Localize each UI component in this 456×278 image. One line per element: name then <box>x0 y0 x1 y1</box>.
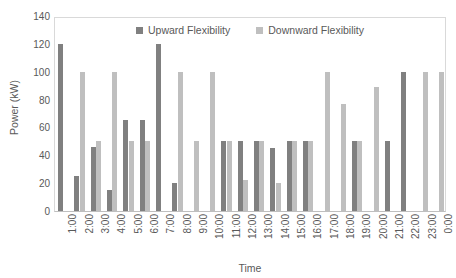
bar[interactable] <box>238 141 243 211</box>
y-axis-tick-label: 140 <box>22 12 50 22</box>
bar[interactable] <box>156 44 161 211</box>
bar[interactable] <box>439 72 444 211</box>
bar[interactable] <box>140 120 145 211</box>
x-axis-tick-label: 4:00 <box>117 214 127 260</box>
bar[interactable] <box>357 141 362 211</box>
bar-group <box>414 18 430 211</box>
bar[interactable] <box>254 141 259 211</box>
x-axis-tick-label: 7:00 <box>166 214 176 260</box>
bar-group <box>137 18 153 211</box>
bar[interactable] <box>123 120 128 211</box>
bar[interactable] <box>145 141 150 211</box>
bar[interactable] <box>259 141 264 211</box>
bar-group <box>398 18 414 211</box>
x-axis-tick-label: 21:00 <box>395 214 405 260</box>
bar-group <box>284 18 300 211</box>
bar[interactable] <box>227 141 232 211</box>
bar[interactable] <box>96 141 101 211</box>
x-axis-tick-label: 14:00 <box>281 214 291 260</box>
x-axis-tick-label: 9:00 <box>199 214 209 260</box>
y-axis-tick-label: 60 <box>22 123 50 133</box>
x-axis-tick-label: 2:00 <box>85 214 95 260</box>
bar[interactable] <box>58 44 63 211</box>
x-axis-tick-label: 10:00 <box>215 214 225 260</box>
bar-group <box>153 18 169 211</box>
bar-group <box>431 18 447 211</box>
bar-group <box>316 18 332 211</box>
x-axis-tick-label: 8:00 <box>183 214 193 260</box>
bar-chart: Power (kW) 020406080100120140 Upward Fle… <box>0 0 456 278</box>
bar-group <box>382 18 398 211</box>
bar-group <box>300 18 316 211</box>
bar-group <box>120 18 136 211</box>
bar[interactable] <box>385 141 390 211</box>
bar-group <box>365 18 381 211</box>
bar[interactable] <box>325 72 330 211</box>
x-axis-tick-label: 23:00 <box>428 214 438 260</box>
x-axis-tick-label: 18:00 <box>346 214 356 260</box>
bar[interactable] <box>80 72 85 211</box>
x-axis-tick-label: 19:00 <box>362 214 372 260</box>
bar-group <box>251 18 267 211</box>
y-axis-tick-label: 120 <box>22 40 50 50</box>
x-axis-tick-label: 17:00 <box>330 214 340 260</box>
bar[interactable] <box>292 141 297 211</box>
bar[interactable] <box>401 72 406 211</box>
x-axis-tick-label: 1:00 <box>68 214 78 260</box>
y-axis-tick-label: 100 <box>22 68 50 78</box>
x-axis-tick-label: 20:00 <box>379 214 389 260</box>
bar[interactable] <box>308 141 313 211</box>
x-axis-tick-label: 3:00 <box>101 214 111 260</box>
bar-group <box>202 18 218 211</box>
bar[interactable] <box>178 72 183 211</box>
bars-layer <box>55 18 445 211</box>
x-axis-ticks: 1:002:003:004:005:006:007:008:009:0010:0… <box>54 214 446 260</box>
bar[interactable] <box>341 104 346 211</box>
y-axis-title: Power (kW) <box>6 10 22 205</box>
x-axis-tick-label: 11:00 <box>232 214 242 260</box>
bar[interactable] <box>74 176 79 211</box>
x-axis-title: Time <box>54 261 446 275</box>
bar[interactable] <box>352 141 357 211</box>
plot-area: Upward FlexibilityDownward Flexibility <box>54 17 446 212</box>
x-axis-tick-label: 0:00 <box>444 214 454 260</box>
y-axis-tick-label: 40 <box>22 151 50 161</box>
bar[interactable] <box>112 72 117 211</box>
bar-group <box>218 18 234 211</box>
bar-group <box>104 18 120 211</box>
x-axis-tick-label: 15:00 <box>297 214 307 260</box>
bar[interactable] <box>91 147 96 211</box>
y-axis-tick-label: 20 <box>22 179 50 189</box>
x-axis-tick-label: 6:00 <box>150 214 160 260</box>
bar[interactable] <box>172 183 177 211</box>
bar-group <box>333 18 349 211</box>
y-axis-tick-label: 0 <box>22 207 50 217</box>
bar[interactable] <box>194 141 199 211</box>
bar-group <box>71 18 87 211</box>
bar-group <box>169 18 185 211</box>
x-axis-tick-label: 5:00 <box>134 214 144 260</box>
bar[interactable] <box>107 190 112 211</box>
y-axis-tick-label: 80 <box>22 96 50 106</box>
bar[interactable] <box>243 180 248 211</box>
bar[interactable] <box>270 148 275 211</box>
y-axis-ticks: 020406080100120140 <box>22 10 50 216</box>
bar[interactable] <box>210 72 215 211</box>
bar[interactable] <box>276 183 281 211</box>
x-axis-tick-label: 12:00 <box>248 214 258 260</box>
bar[interactable] <box>129 141 134 211</box>
bar-group <box>186 18 202 211</box>
bar[interactable] <box>287 141 292 211</box>
bar-group <box>267 18 283 211</box>
bar[interactable] <box>221 141 226 211</box>
bar-group <box>55 18 71 211</box>
bar-group <box>349 18 365 211</box>
bar[interactable] <box>423 72 428 211</box>
bar-group <box>235 18 251 211</box>
bar[interactable] <box>374 87 379 211</box>
bar[interactable] <box>303 141 308 211</box>
bar-group <box>88 18 104 211</box>
x-axis-tick-label: 16:00 <box>313 214 323 260</box>
x-axis-tick-label: 22:00 <box>411 214 421 260</box>
x-axis-tick-label: 13:00 <box>264 214 274 260</box>
